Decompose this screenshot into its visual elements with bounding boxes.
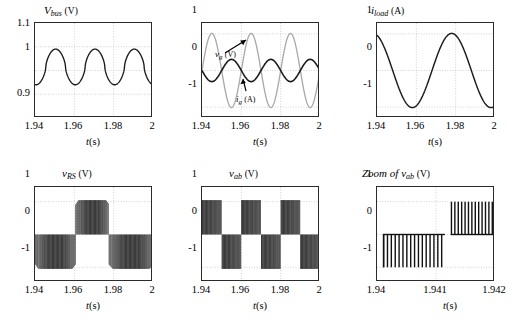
ytick-vrs-1: 0 (2, 205, 30, 216)
ytick-vg-ig-1: 0 (169, 41, 197, 52)
xlabel-vab-zoom: t(s) (415, 300, 485, 311)
xtick-vab-2: 1.98 (260, 284, 300, 295)
xlabel-vab: t(s) (225, 300, 295, 311)
annotation-arrows-vg-ig (225, 40, 246, 91)
ytick-vab-0: 1 (169, 168, 197, 179)
curve-vbus (35, 49, 152, 85)
plot-area-vg-ig (201, 22, 319, 117)
xtick-vg-ig-3: 2 (305, 120, 333, 131)
curve-vrs (35, 200, 152, 269)
plot-area-vab (201, 186, 319, 281)
xtick-iload-3: 2 (480, 120, 508, 131)
ytick-vbus-2: 0.9 (0, 87, 30, 98)
xtick-vbus-0: 1.94 (14, 120, 54, 131)
xtick-vab-1: 1.96 (220, 284, 260, 295)
xtick-vab-zoom-1: 1.941 (415, 284, 455, 295)
plot-svg-iload (377, 23, 494, 117)
xtick-vab-0: 1.94 (181, 284, 221, 295)
plot-svg-vg-ig (202, 23, 319, 117)
plot-area-vrs (34, 186, 152, 281)
xtick-vbus-3: 2 (138, 120, 166, 131)
plot-area-iload (376, 22, 494, 117)
ytick-vab-zoom-0: 1 (344, 168, 372, 179)
ytick-vab-zoom-1: 0 (344, 205, 372, 216)
ytick-vab-1: 0 (169, 205, 197, 216)
ytick-iload-2: -1 (344, 78, 372, 89)
figure-container: Vbus (V) 1.1 1 0.9 1.94 1.96 1.98 2 t(s) (0, 0, 530, 330)
panel-vrs-title: vRS (V) (62, 167, 92, 181)
ytick-vbus-0: 1.1 (0, 17, 30, 28)
plot-svg-vbus (35, 23, 152, 117)
curve-vab (202, 200, 319, 269)
xtick-vbus-1: 1.96 (53, 120, 93, 131)
curve-vab-zoom (383, 202, 494, 268)
xtick-vg-ig-2: 1.98 (260, 120, 300, 131)
xtick-iload-2: 1.98 (435, 120, 475, 131)
ytick-vab-zoom-2: -1 (344, 242, 372, 253)
xtick-vrs-3: 2 (138, 284, 166, 295)
panel-vbus-title: Vbus (V) (44, 4, 78, 18)
ytick-vrs-2: -1 (2, 242, 30, 253)
xtick-iload-0: 1.94 (356, 120, 396, 131)
xtick-iload-1: 1.96 (395, 120, 435, 131)
ytick-iload-1: 0 (344, 41, 372, 52)
annotation-vg: vg (V) (215, 49, 236, 61)
xlabel-iload: t(s) (400, 136, 470, 147)
plot-area-vab-zoom (376, 186, 494, 281)
annotation-ig: ig (A) (236, 94, 255, 106)
xlabel-vrs: t(s) (58, 300, 128, 311)
ytick-iload-0: 1 (344, 4, 372, 15)
xtick-vg-ig-0: 1.94 (181, 120, 221, 131)
ytick-vab-2: -1 (169, 242, 197, 253)
ytick-vg-ig-2: -1 (169, 78, 197, 89)
gridlines-vbus (35, 23, 152, 117)
plot-svg-vab-zoom (377, 187, 494, 281)
plot-area-vbus (34, 22, 152, 117)
xtick-vrs-0: 1.94 (14, 284, 54, 295)
plot-svg-vrs (35, 187, 152, 281)
plot-svg-vab (202, 187, 319, 281)
gridlines-iload (377, 23, 494, 117)
xtick-vab-zoom-2: 1.942 (474, 284, 514, 295)
ytick-vg-ig-0: 1 (169, 4, 197, 15)
ytick-vbus-1: 1 (0, 41, 30, 52)
panel-vab-title: vab (V) (229, 167, 258, 181)
xtick-vrs-1: 1.96 (53, 284, 93, 295)
panel-vab-zoom-title: Zoom of vab (V) (362, 167, 430, 181)
xtick-vbus-2: 1.98 (93, 120, 133, 131)
panel-iload-title: iload (A) (371, 4, 404, 18)
xtick-vrs-2: 1.98 (93, 284, 133, 295)
xtick-vab-zoom-0: 1.94 (356, 284, 396, 295)
xlabel-vg-ig: t(s) (225, 136, 295, 147)
ytick-vrs-0: 1 (2, 168, 30, 179)
xlabel-vbus: t(s) (58, 136, 128, 147)
xtick-vab-3: 2 (305, 284, 333, 295)
xtick-vg-ig-1: 1.96 (220, 120, 260, 131)
